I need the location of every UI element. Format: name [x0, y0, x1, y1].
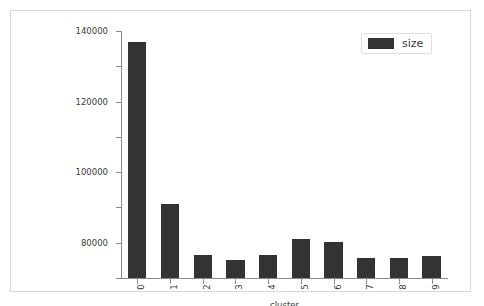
- bar: [292, 239, 310, 278]
- y-tick-label: 80000: [81, 238, 108, 247]
- x-tick-mark: [268, 279, 269, 284]
- bar: [422, 256, 440, 278]
- legend-label-size: size: [402, 38, 423, 49]
- bar: [357, 258, 375, 278]
- output-frame: 020000400006000080000100000120000140000 …: [10, 10, 471, 292]
- x-tick-label: 9: [432, 284, 441, 289]
- x-tick-label: 2: [203, 284, 212, 289]
- y-tick-mark: 40000: [116, 207, 121, 208]
- bar: [161, 204, 179, 278]
- x-tick-mark: [399, 279, 400, 284]
- x-tick-label: 6: [334, 284, 343, 289]
- x-tick-label: 3: [235, 284, 244, 289]
- y-tick-mark: 20000: [116, 243, 121, 244]
- bar: [226, 260, 244, 278]
- legend-swatch-size: [368, 38, 394, 49]
- y-axis-spine: [121, 31, 122, 279]
- y-tick-mark: 120000: [116, 66, 121, 67]
- y-tick-mark: 0: [116, 278, 121, 279]
- x-axis-label: cluster: [121, 301, 448, 306]
- x-tick-mark: [203, 279, 204, 284]
- x-tick-label: 5: [301, 284, 310, 289]
- x-tick-mark: [334, 279, 335, 284]
- bar: [390, 258, 408, 278]
- x-tick-mark: [137, 279, 138, 284]
- bar: [194, 255, 212, 278]
- x-tick-label: 1: [170, 284, 179, 289]
- y-tick-mark: 60000: [116, 172, 121, 173]
- x-tick-mark: [235, 279, 236, 284]
- bar: [259, 255, 277, 278]
- y-tick-mark: 80000: [116, 137, 121, 138]
- y-tick-label: 140000: [76, 27, 108, 36]
- bar: [324, 242, 342, 278]
- figure-canvas: 020000400006000080000100000120000140000 …: [0, 0, 484, 306]
- y-tick-mark: 140000: [116, 31, 121, 32]
- x-tick-mark: [170, 279, 171, 284]
- y-tick-mark: 100000: [116, 102, 121, 103]
- chart-legend: size: [361, 33, 432, 54]
- plot-area: 020000400006000080000100000120000140000 …: [121, 31, 448, 279]
- x-tick-label: 8: [399, 284, 408, 289]
- x-tick-label: 7: [366, 284, 375, 289]
- x-tick-label: 0: [137, 284, 146, 289]
- x-tick-label: 4: [268, 284, 277, 289]
- x-tick-mark: [301, 279, 302, 284]
- x-tick-mark: [366, 279, 367, 284]
- y-tick-label: 100000: [76, 168, 108, 177]
- x-tick-mark: [432, 279, 433, 284]
- bar: [128, 42, 146, 278]
- y-tick-label: 120000: [76, 97, 108, 106]
